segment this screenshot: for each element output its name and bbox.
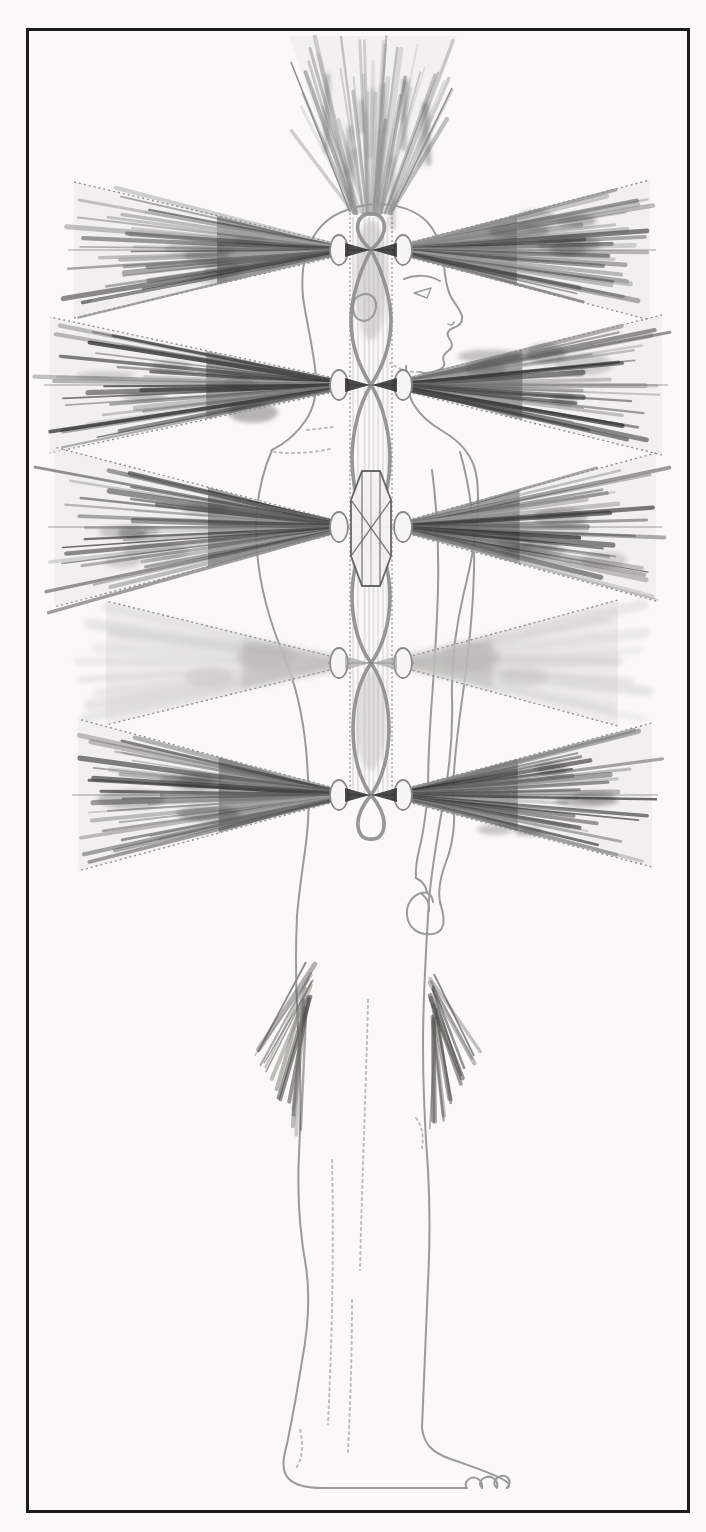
shoulder-line (274, 449, 330, 453)
leg-inner-line-c (348, 1300, 352, 1452)
leg-inner-line-a (328, 1160, 333, 1424)
nostril (448, 322, 454, 325)
chakra-row-2-node (328, 370, 414, 400)
chakra-row-2-rear-cone (34, 317, 334, 453)
chakra-diagram (0, 0, 706, 1532)
knee-mark (416, 1118, 423, 1148)
chakra-row-3-front-bulb (394, 512, 412, 542)
heel-sole (284, 1444, 437, 1488)
chakra-row-3-rear-cone (35, 447, 334, 613)
back-mark (307, 427, 333, 430)
hip-fan-front (430, 974, 481, 1129)
eyebrow (404, 276, 440, 281)
ankle-mark (296, 1430, 302, 1468)
leg-inner-line-b (360, 1000, 368, 1270)
chakra-row-5-rear-cone (72, 719, 334, 871)
eye (414, 288, 431, 298)
chakra-row-4-rear-cone (78, 601, 334, 725)
chakra-row-1-front-cone (408, 180, 656, 320)
illustration-page (0, 0, 706, 1532)
chakra-row-5-front-cone (408, 723, 662, 867)
front-leg-contour (422, 900, 430, 1428)
chakra-row-3-front-cone (408, 453, 669, 601)
chakra-row-4-front-cone (408, 600, 647, 726)
chakra-row-1-rear-cone (63, 182, 334, 318)
heart-diamond (351, 471, 391, 586)
chakra-row-3-rear-bulb (330, 512, 348, 542)
chakra-row-5-node (328, 780, 414, 810)
hip-fan-rear (255, 962, 315, 1135)
crown-vortex-cone (289, 36, 457, 228)
finger-line-b (416, 878, 427, 892)
toes (436, 1476, 509, 1488)
front-torso (429, 498, 478, 900)
hand (407, 796, 454, 934)
